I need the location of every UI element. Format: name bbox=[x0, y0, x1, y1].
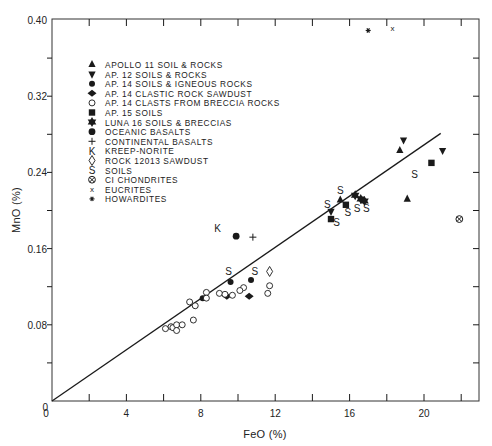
diamond-open-marker bbox=[267, 266, 273, 276]
diamond-filled-marker bbox=[88, 90, 97, 97]
filled-circle-marker bbox=[248, 277, 254, 283]
legend-label: AP. 15 SOILS bbox=[105, 108, 163, 118]
x-tick-label: 12 bbox=[270, 408, 282, 419]
legend-label: CONTINENTAL BASALTS bbox=[105, 137, 213, 147]
legend-label: CI CHONDRITES bbox=[105, 175, 178, 185]
x-axis-title: FeO (%) bbox=[243, 428, 287, 440]
open-circle-marker bbox=[190, 317, 196, 323]
y-axis-title: MnO (%) bbox=[10, 187, 22, 233]
legend-item: xEUCRITES bbox=[90, 185, 152, 195]
filled-circle-marker bbox=[89, 128, 96, 135]
open-circle-marker bbox=[237, 288, 243, 294]
legend-item: CONTINENTAL BASALTS bbox=[89, 137, 214, 147]
triangle-down-marker bbox=[400, 137, 407, 144]
s-marker: S bbox=[337, 185, 344, 196]
triangle-up-marker bbox=[404, 194, 411, 201]
legend-label: APOLLO 11 SOIL & ROCKS bbox=[105, 60, 223, 70]
legend-label: LUNA 16 SOILS & BRECCIAS bbox=[105, 118, 232, 128]
legend-label: HOWARDITES bbox=[105, 194, 167, 204]
open-circle-marker bbox=[216, 290, 222, 296]
triangle-down-marker bbox=[439, 148, 446, 155]
s-marker: S bbox=[251, 266, 258, 277]
y-tick-label: 0.16 bbox=[28, 244, 48, 255]
square-marker bbox=[89, 109, 95, 115]
y-tick-label: 0.40 bbox=[28, 15, 48, 26]
open-circle-marker bbox=[229, 292, 235, 298]
s-marker: S bbox=[225, 266, 232, 277]
open-circle-marker bbox=[267, 283, 273, 289]
legend-item: AP. 12 SOILS & ROCKS bbox=[88, 70, 207, 80]
asterisk-marker bbox=[90, 197, 95, 201]
open-circle-marker bbox=[222, 291, 228, 297]
open-circle-marker bbox=[187, 299, 193, 305]
open-circle-marker bbox=[174, 322, 180, 328]
k-marker: K bbox=[214, 223, 221, 234]
diamond-open-marker bbox=[89, 156, 95, 166]
legend-label: EUCRITES bbox=[105, 185, 152, 195]
legend-item: ROCK 12013 SAWDUST bbox=[89, 156, 209, 167]
series-continental-basalts bbox=[249, 234, 256, 241]
triangle-up-marker bbox=[88, 60, 95, 67]
legend: APOLLO 11 SOIL & ROCKSAP. 12 SOILS & ROC… bbox=[88, 60, 280, 205]
x-tick-label: 20 bbox=[418, 408, 430, 419]
scatter-chart: 04812162000.080.160.240.320.40 KSSSSSSSS… bbox=[0, 0, 492, 446]
triangle-down-marker bbox=[88, 72, 95, 79]
filled-circle-marker bbox=[89, 81, 95, 87]
series-kreep-norite: K bbox=[214, 223, 221, 234]
triangle-down-marker bbox=[327, 209, 334, 216]
open-circle-marker bbox=[192, 303, 198, 309]
series-ci-chondrites bbox=[456, 216, 463, 223]
x-tick-label: 16 bbox=[344, 408, 356, 419]
legend-item: OCEANIC BASALTS bbox=[89, 127, 191, 137]
circle-cross-marker bbox=[89, 176, 96, 183]
series-ap-14-clasts-from-breccia-rocks bbox=[162, 283, 272, 334]
series-apollo-11-soil-rocks bbox=[337, 146, 411, 203]
s-marker: S bbox=[354, 203, 361, 214]
series-rock-12013-sawdust bbox=[267, 266, 273, 276]
s-marker: S bbox=[344, 207, 351, 218]
s-marker: S bbox=[324, 199, 331, 210]
legend-label: AP. 14 SOILS & IGNEOUS ROCKS bbox=[105, 79, 253, 89]
filled-circle-marker bbox=[228, 279, 234, 285]
axis-tick-labels: 04812162000.080.160.240.320.40 bbox=[28, 15, 430, 419]
s-marker: S bbox=[363, 203, 370, 214]
x-tick-label: 4 bbox=[124, 408, 130, 419]
s-marker: S bbox=[411, 169, 418, 180]
y-tick-label: 0 bbox=[42, 402, 48, 413]
legend-item: LUNA 16 SOILS & BRECCIAS bbox=[88, 117, 232, 128]
legend-item: CI CHONDRITES bbox=[89, 175, 179, 185]
s-marker: S bbox=[333, 217, 340, 228]
plus-marker bbox=[249, 234, 256, 241]
legend-item: HOWARDITES bbox=[90, 194, 167, 204]
diamond-filled-marker bbox=[245, 293, 254, 300]
open-circle-marker bbox=[203, 295, 209, 301]
open-circle-marker bbox=[174, 328, 180, 334]
series-eucrites: x bbox=[390, 24, 394, 33]
open-circle-marker bbox=[89, 100, 95, 106]
y-tick-label: 0.08 bbox=[28, 320, 48, 331]
legend-item: AP. 15 SOILS bbox=[89, 108, 163, 118]
circle-cross-marker bbox=[456, 216, 463, 223]
plus-marker bbox=[89, 138, 96, 145]
x-tick-label: 8 bbox=[198, 408, 204, 419]
series-oceanic-basalts bbox=[233, 233, 240, 240]
legend-label: AP. 14 CLASTIC ROCK SAWDUST bbox=[105, 89, 252, 99]
legend-label: AP. 14 CLASTS FROM BRECCIA ROCKS bbox=[105, 98, 280, 108]
star-marker bbox=[88, 117, 97, 127]
asterisk-marker bbox=[366, 28, 371, 32]
triangle-up-marker bbox=[396, 146, 403, 153]
x-marker: x bbox=[390, 24, 394, 33]
data-points: KSSSSSSSSSx bbox=[162, 24, 462, 334]
legend-item: AP. 14 CLASTS FROM BRECCIA ROCKS bbox=[89, 98, 280, 108]
square-marker bbox=[428, 160, 434, 166]
s-marker: S bbox=[89, 165, 96, 176]
y-tick-label: 0.32 bbox=[28, 91, 48, 102]
x-marker: x bbox=[90, 185, 94, 194]
legend-label: KREEP-NORITE bbox=[105, 146, 174, 156]
legend-item: APOLLO 11 SOIL & ROCKS bbox=[88, 60, 222, 70]
legend-item: AP. 14 CLASTIC ROCK SAWDUST bbox=[88, 89, 253, 99]
legend-label: SOILS bbox=[105, 166, 132, 176]
legend-label: OCEANIC BASALTS bbox=[105, 127, 191, 137]
legend-label: AP. 12 SOILS & ROCKS bbox=[105, 70, 207, 80]
open-circle-marker bbox=[179, 322, 185, 328]
